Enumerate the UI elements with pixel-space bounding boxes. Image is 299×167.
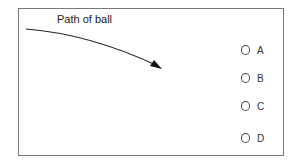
option-c[interactable]: C bbox=[241, 99, 264, 113]
option-label: C bbox=[257, 101, 264, 112]
radio-circle-icon[interactable] bbox=[241, 133, 250, 143]
option-label: A bbox=[257, 45, 264, 56]
option-b[interactable]: B bbox=[241, 71, 264, 85]
radio-circle-icon[interactable] bbox=[241, 45, 250, 55]
option-label: B bbox=[257, 73, 264, 84]
radio-circle-icon[interactable] bbox=[241, 73, 250, 83]
option-label: D bbox=[257, 133, 264, 144]
option-a[interactable]: A bbox=[241, 43, 264, 57]
radio-circle-icon[interactable] bbox=[241, 101, 250, 111]
option-d[interactable]: D bbox=[241, 131, 264, 145]
